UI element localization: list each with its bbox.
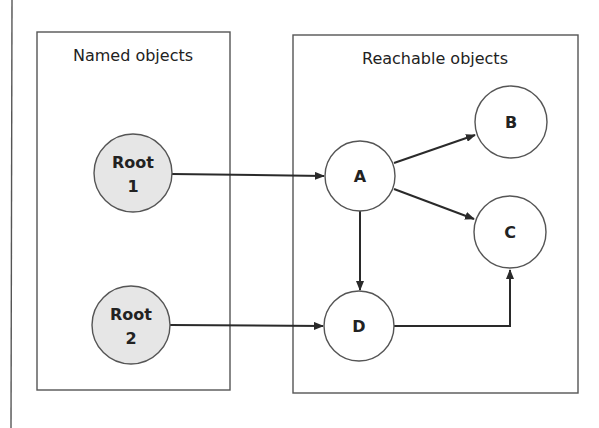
node-d-label: D	[352, 317, 365, 336]
node-root-2-label-line2: 2	[125, 329, 136, 348]
node-root-1: Root 1	[94, 134, 172, 212]
reachable-objects-title: Reachable objects	[362, 49, 508, 68]
page-left-border	[11, 0, 12, 428]
node-root-1-circle	[94, 134, 172, 212]
node-root-1-label-line1: Root	[112, 153, 154, 172]
named-objects-title: Named objects	[73, 46, 193, 65]
node-a: A	[325, 141, 395, 211]
node-b-label: B	[505, 113, 517, 132]
node-a-label: A	[354, 167, 367, 186]
node-d: D	[324, 291, 394, 361]
edge-root1-to-a	[172, 174, 324, 176]
node-root-1-label-line2: 1	[127, 177, 138, 196]
edge-root2-to-d	[170, 325, 323, 326]
node-c: C	[474, 196, 546, 268]
reachability-diagram: Named objects Reachable objects Root 1 R…	[0, 0, 599, 428]
node-root-2-label-line1: Root	[110, 305, 152, 324]
edge-a-to-b	[394, 135, 475, 163]
node-root-2: Root 2	[92, 286, 170, 364]
edge-d-to-c	[394, 270, 510, 326]
node-b: B	[475, 86, 547, 158]
node-root-2-circle	[92, 286, 170, 364]
edge-a-to-c	[394, 189, 474, 219]
node-c-label: C	[504, 223, 516, 242]
